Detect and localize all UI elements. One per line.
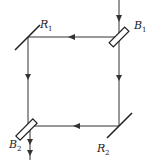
svg-text:2: 2	[105, 149, 109, 157]
beam-splitter-b2: B 2	[8, 119, 37, 153]
path-b1-r1	[28, 34, 119, 40]
arrow-down-icon	[25, 74, 31, 80]
interferometer-diagram: R 1 R 2 B 1 B 2	[0, 0, 150, 162]
label-r2: R	[96, 142, 105, 155]
svg-text:2: 2	[17, 145, 21, 153]
label-b2: B	[8, 138, 17, 151]
arrow-left-icon	[73, 123, 80, 129]
path-r1-b2	[25, 37, 31, 126]
path-b1-r2	[116, 37, 122, 126]
beam-splitter-b1: B 1	[109, 19, 146, 47]
svg-text:1: 1	[48, 25, 52, 33]
label-r1: R	[39, 18, 48, 31]
svg-text:1: 1	[142, 26, 146, 34]
arrow-down-icon	[27, 150, 33, 156]
arrow-down-icon	[27, 139, 33, 145]
mirror-r2: R 2	[96, 113, 132, 157]
path-r2-b2	[28, 123, 119, 129]
label-b1: B	[133, 19, 142, 32]
arrow-down-icon	[116, 75, 122, 81]
mirror-r1: R 1	[15, 18, 52, 50]
arrow-left-icon	[68, 34, 75, 40]
arrow-down-icon	[116, 15, 122, 22]
